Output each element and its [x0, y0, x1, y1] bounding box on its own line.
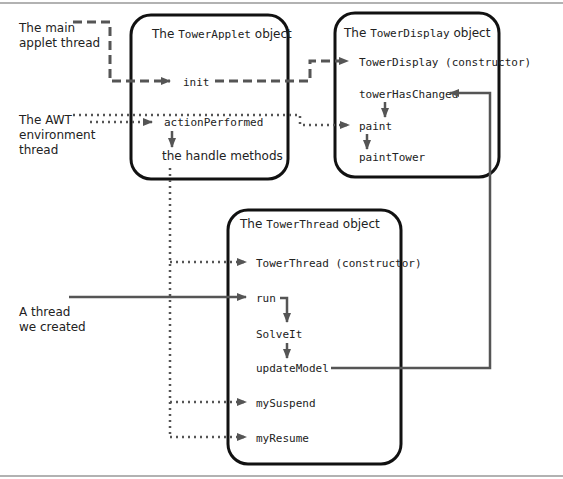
created-thread-label: A thread we created — [19, 305, 86, 334]
method-init: init — [183, 76, 210, 89]
method-run: run — [256, 292, 276, 305]
tower-thread-title: The TowerThread object — [239, 217, 380, 231]
method-paint-tower: paintTower — [359, 151, 426, 164]
tower-thread-box — [228, 210, 401, 464]
method-action-performed: actionPerformed — [164, 116, 263, 129]
method-towerthread-constructor: TowerThread (constructor) — [256, 257, 422, 270]
method-tower-has-changed: towerHasChanged — [359, 88, 458, 101]
awt-thread-path — [73, 115, 349, 437]
tower-display-title: The TowerDisplay object — [343, 26, 491, 40]
method-towerdisplay-constructor: TowerDisplay (constructor) — [359, 56, 531, 69]
method-paint: paint — [359, 120, 392, 133]
method-my-resume: myResume — [256, 432, 309, 445]
awt-thread-label: The AWT environment thread — [18, 113, 99, 157]
method-handle-methods: the handle methods — [162, 149, 283, 163]
thread-diagram: The main applet thread The AWT environme… — [0, 0, 563, 479]
tower-applet-title: The TowerApplet object — [151, 27, 292, 41]
method-my-suspend: mySuspend — [256, 397, 316, 410]
method-update-model: updateModel — [256, 362, 329, 375]
main-thread-label: The main applet thread — [18, 21, 100, 50]
method-solveit: SolveIt — [256, 328, 302, 341]
